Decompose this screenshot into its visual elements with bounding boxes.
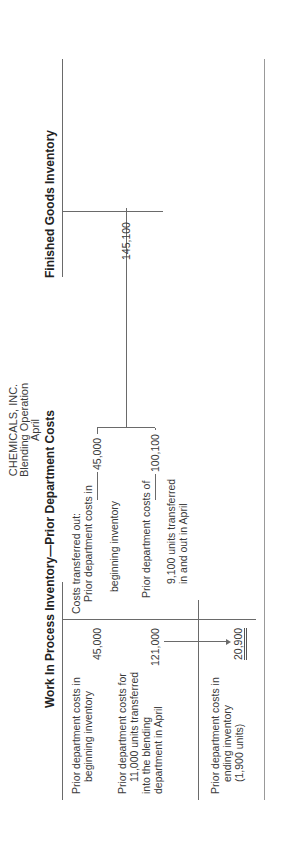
title-block: CHEMICALS, INC. Blending Operation April bbox=[8, 360, 41, 500]
wip-credit-2-label-b: 9,100 units transferred in and out in Ap… bbox=[165, 479, 189, 584]
bracket-top bbox=[97, 428, 98, 434]
fg-t-divider bbox=[62, 211, 163, 212]
arrow-head-icon bbox=[226, 639, 231, 645]
period-label: April bbox=[30, 360, 41, 500]
wip-debit-2-amount: 121,000 bbox=[149, 628, 161, 666]
wip-credit-2-label-a: Prior department costs of bbox=[140, 481, 152, 598]
wip-ending-amount: 20,900 bbox=[232, 628, 244, 660]
bottom-rule bbox=[264, 59, 265, 800]
wip-debit-1-amount: 45,000 bbox=[91, 628, 103, 660]
wip-account-header: Work In Process Inventory—Prior Departme… bbox=[43, 410, 57, 708]
wip-credit-1-amount: 45,000 bbox=[91, 438, 103, 470]
wip-credit-2-amount: 100,100 bbox=[149, 434, 161, 472]
fg-top-rule bbox=[62, 59, 63, 277]
wip-balance-rule bbox=[198, 600, 199, 800]
fg-account-header: Finished Goods Inventory bbox=[43, 130, 57, 278]
connector-45000 bbox=[97, 472, 98, 500]
wip-debit-2-label: Prior department costs for 11,000 units … bbox=[116, 672, 164, 794]
wip-credit-1-label-b: beginning inventory bbox=[108, 501, 120, 592]
wip-top-rule bbox=[62, 582, 63, 800]
wip-debit-1-label: Prior department costs in beginning inve… bbox=[70, 677, 94, 794]
wip-credit-1-label-a: Prior department costs in bbox=[82, 485, 94, 602]
t-account-diagram: CHEMICALS, INC. Blending Operation April… bbox=[0, 0, 282, 860]
wip-ending-label: Prior department costs in ending invento… bbox=[209, 677, 245, 794]
wip-t-divider bbox=[62, 619, 256, 620]
fg-debit-amount: 145,100 bbox=[120, 222, 132, 260]
arrow-to-ending bbox=[164, 641, 228, 642]
connector-100100 bbox=[155, 474, 156, 500]
wip-credit-intro: Costs transferred out: bbox=[70, 513, 82, 614]
bracket-bottom bbox=[155, 428, 156, 430]
